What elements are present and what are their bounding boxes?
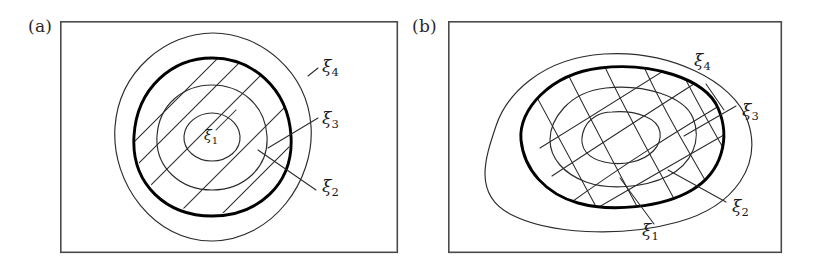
panel-b-canvas: ξ4 ξ3 ξ2 ξ1 (0, 0, 818, 274)
panel-b-frame (449, 22, 782, 253)
figure-root: ξ4 ξ3 ξ2 ξ1 (a) (0, 0, 818, 274)
panel-b: ξ4 ξ3 ξ2 ξ1 (b) (0, 0, 818, 274)
panel-b-tag: (b) (412, 16, 437, 36)
